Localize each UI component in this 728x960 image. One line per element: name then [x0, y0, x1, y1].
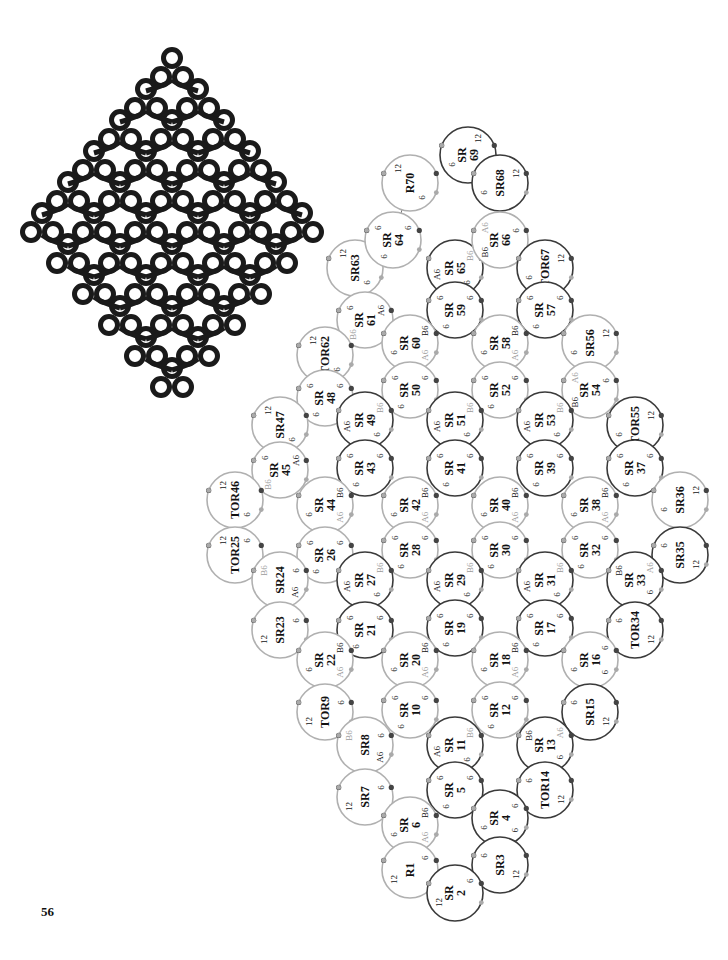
stitch-count: 6: [524, 275, 534, 280]
stitch-count: B6: [420, 807, 430, 818]
join-dot: [492, 143, 497, 148]
ring-number: 37: [634, 462, 648, 474]
picot-marker: [417, 247, 422, 252]
stitch-count: B6: [335, 487, 345, 498]
stitch-count: 6: [480, 535, 490, 540]
picot-marker: [349, 667, 354, 672]
stitch-count: 6: [614, 432, 624, 437]
join-dot: [524, 331, 529, 336]
stitch-count: 6: [465, 453, 475, 458]
ring-label: SR8: [358, 734, 372, 755]
stitch-count: 6: [465, 613, 475, 618]
ring-number: 58: [499, 337, 513, 349]
ring-number: 12: [499, 704, 513, 716]
stitch-count: A6: [335, 666, 345, 677]
stitch-count: 6: [345, 453, 355, 458]
ring-number: 44: [324, 499, 338, 511]
picot-marker: [434, 717, 439, 722]
picot-marker: [336, 408, 341, 413]
picot-marker: [479, 900, 484, 905]
stitch-count: 6: [335, 540, 345, 545]
ring-number: 5: [454, 787, 468, 793]
ring-number: 17: [544, 622, 558, 634]
stitch-count: B6: [510, 642, 520, 653]
picot-marker: [426, 256, 431, 261]
join-dot: [614, 493, 619, 498]
join-dot: [389, 733, 394, 738]
stitch-count: 6: [525, 613, 535, 618]
stitch-count: B6: [375, 402, 385, 413]
stitch-count: 12: [434, 898, 444, 907]
picot-marker: [471, 171, 476, 176]
stitch-count: 6: [531, 642, 541, 647]
ring-number: 38: [589, 499, 603, 511]
picot-marker: [606, 456, 611, 461]
picot-marker: [561, 493, 566, 498]
ring-label: TOR14: [538, 771, 552, 809]
stitch-count: 6: [396, 404, 406, 409]
stitch-count: 6: [447, 162, 457, 167]
ring-label: SR35: [673, 541, 687, 568]
picot-marker: [336, 733, 341, 738]
picot-marker: [434, 350, 439, 355]
ring-number: 39: [544, 462, 558, 474]
picot-marker: [524, 667, 529, 672]
stitch-count: A6: [432, 420, 442, 431]
ring-label: TOR34: [628, 611, 642, 649]
stitch-count: A6: [432, 580, 442, 591]
ring-number: 13: [544, 739, 558, 751]
stitch-count: 6: [600, 535, 610, 540]
ring-number: 51: [454, 414, 468, 426]
picot-marker: [471, 806, 476, 811]
join-dot: [434, 858, 439, 863]
stitch-count: 12: [304, 717, 314, 726]
picot-marker: [296, 386, 301, 391]
stitch-count: B6: [259, 565, 269, 576]
join-dot: [304, 618, 309, 623]
ring-number: 54: [589, 384, 603, 396]
stitch-count: 6: [345, 615, 355, 620]
stitch-count: 6: [510, 375, 520, 380]
join-dot: [524, 171, 529, 176]
picot-marker: [471, 331, 476, 336]
ring-number: 27: [364, 574, 378, 586]
stitch-count: 12: [308, 336, 318, 345]
stitch-count: 6: [569, 512, 579, 517]
ring-sr33: SR33A6B66: [606, 552, 664, 608]
join-dot: [614, 331, 619, 336]
stitch-count: B6: [344, 730, 354, 741]
picot-marker: [651, 488, 656, 493]
stitch-count: A6: [335, 511, 345, 522]
join-dot: [614, 378, 619, 383]
stitch-count: 6: [390, 535, 400, 540]
join-dot: [614, 700, 619, 705]
ring-number: 31: [544, 574, 558, 586]
ring-sr16: SR16666: [561, 632, 619, 688]
picot-marker: [426, 298, 431, 303]
join-dot: [304, 568, 309, 573]
stitch-count: 12: [218, 536, 228, 545]
stitch-count: 12: [556, 795, 566, 804]
join-dot: [479, 408, 484, 413]
picot-marker: [434, 512, 439, 517]
stitch-count: B6: [263, 479, 273, 490]
ring-sr18: SR18B66A6: [471, 632, 529, 688]
stitch-count: 12: [218, 481, 228, 490]
picot-marker: [296, 343, 301, 348]
stitch-count: A6: [420, 511, 430, 522]
picot-marker: [336, 308, 341, 313]
stitch-count: B6: [614, 565, 624, 576]
picot-marker: [304, 587, 309, 592]
picot-marker: [471, 853, 476, 858]
ring-number: 4: [499, 815, 513, 821]
stitch-count: 6: [462, 592, 472, 597]
ring-label: SR7: [358, 786, 372, 807]
stitch-count: A6: [376, 305, 386, 316]
stitch-count: 12: [263, 406, 273, 415]
join-dot: [659, 568, 664, 573]
stitch-count: 6: [375, 453, 385, 458]
picot-marker: [561, 648, 566, 653]
join-dot: [524, 648, 529, 653]
picot-marker: [336, 785, 341, 790]
picot-marker: [606, 618, 611, 623]
